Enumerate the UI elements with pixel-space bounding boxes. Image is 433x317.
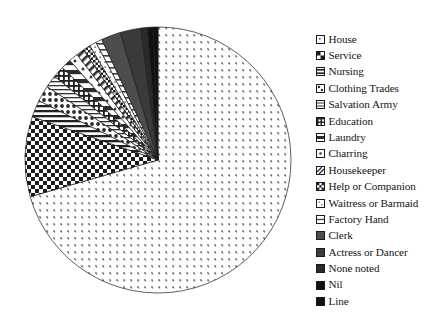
legend-swatch-fine-horizontal — [316, 100, 325, 109]
legend-item[interactable]: House — [316, 31, 433, 47]
legend-item[interactable]: Line — [316, 293, 433, 309]
legend-label: Education — [329, 116, 373, 127]
legend-label: Help or Companion — [329, 181, 416, 192]
legend-item[interactable]: None noted — [316, 260, 433, 276]
legend-label: Clothing Trades — [329, 83, 399, 94]
legend-label: Waitress or Barmaid — [329, 198, 419, 209]
legend-item[interactable]: Charring — [316, 146, 433, 162]
legend-label: Clerk — [329, 230, 353, 241]
legend-swatch-light-horizontal — [316, 215, 325, 224]
legend-label: Salvation Army — [329, 99, 398, 110]
legend-swatch-sparse-speckle — [316, 35, 325, 44]
legend-label: Line — [329, 296, 349, 307]
pie-slice-group — [25, 27, 291, 293]
chart-legend: HouseServiceNursingClothing TradesSalvat… — [316, 31, 433, 310]
legend-swatch-solid-mid-grey — [316, 231, 325, 240]
legend-swatch-wide-stripes — [316, 133, 325, 142]
legend-swatch-diagonal-hatch — [316, 166, 325, 175]
legend-item[interactable]: Nursing — [316, 64, 433, 80]
legend-swatch-medium-dots — [316, 84, 325, 93]
legend-label: Service — [329, 50, 362, 61]
legend-label: House — [329, 34, 357, 45]
legend-item[interactable]: Factory Hand — [316, 211, 433, 227]
legend-item[interactable]: Clothing Trades — [316, 80, 433, 96]
legend-item[interactable]: Actress or Dancer — [316, 244, 433, 260]
pie-chart-figure: HouseServiceNursingClothing TradesSalvat… — [0, 0, 433, 317]
legend-swatch-solid-dark-grey — [316, 248, 325, 257]
legend-item[interactable]: Clerk — [316, 228, 433, 244]
legend-item[interactable]: Salvation Army — [316, 97, 433, 113]
legend-label: Laundry — [329, 132, 366, 143]
legend-label: Nursing — [329, 66, 364, 77]
legend-swatch-solid-black — [316, 281, 325, 290]
legend-item[interactable]: Waitress or Barmaid — [316, 195, 433, 211]
legend-swatch-dense-grid — [316, 117, 325, 126]
legend-swatch-checker-small — [316, 182, 325, 191]
legend-label: Charring — [329, 148, 368, 159]
pie-chart-area — [23, 25, 293, 295]
legend-item[interactable]: Housekeeper — [316, 162, 433, 178]
legend-label: Housekeeper — [329, 165, 386, 176]
legend-label: None noted — [329, 263, 380, 274]
legend-swatch-solid-black — [316, 297, 325, 306]
legend-swatch-sparse-dots — [316, 149, 325, 158]
legend-swatch-fine-speckle — [316, 199, 325, 208]
legend-item[interactable]: Education — [316, 113, 433, 129]
legend-item[interactable]: Laundry — [316, 129, 433, 145]
legend-swatch-horizontal-lines — [316, 67, 325, 76]
legend-item[interactable]: Service — [316, 47, 433, 63]
legend-label: Nil — [329, 279, 343, 290]
legend-item[interactable]: Help or Companion — [316, 179, 433, 195]
legend-label: Factory Hand — [329, 214, 389, 225]
legend-swatch-bold-checkerboard — [316, 51, 325, 60]
legend-swatch-solid-charcoal — [316, 264, 325, 273]
pie-svg — [23, 25, 293, 295]
legend-label: Actress or Dancer — [329, 247, 408, 258]
legend-item[interactable]: Nil — [316, 277, 433, 293]
